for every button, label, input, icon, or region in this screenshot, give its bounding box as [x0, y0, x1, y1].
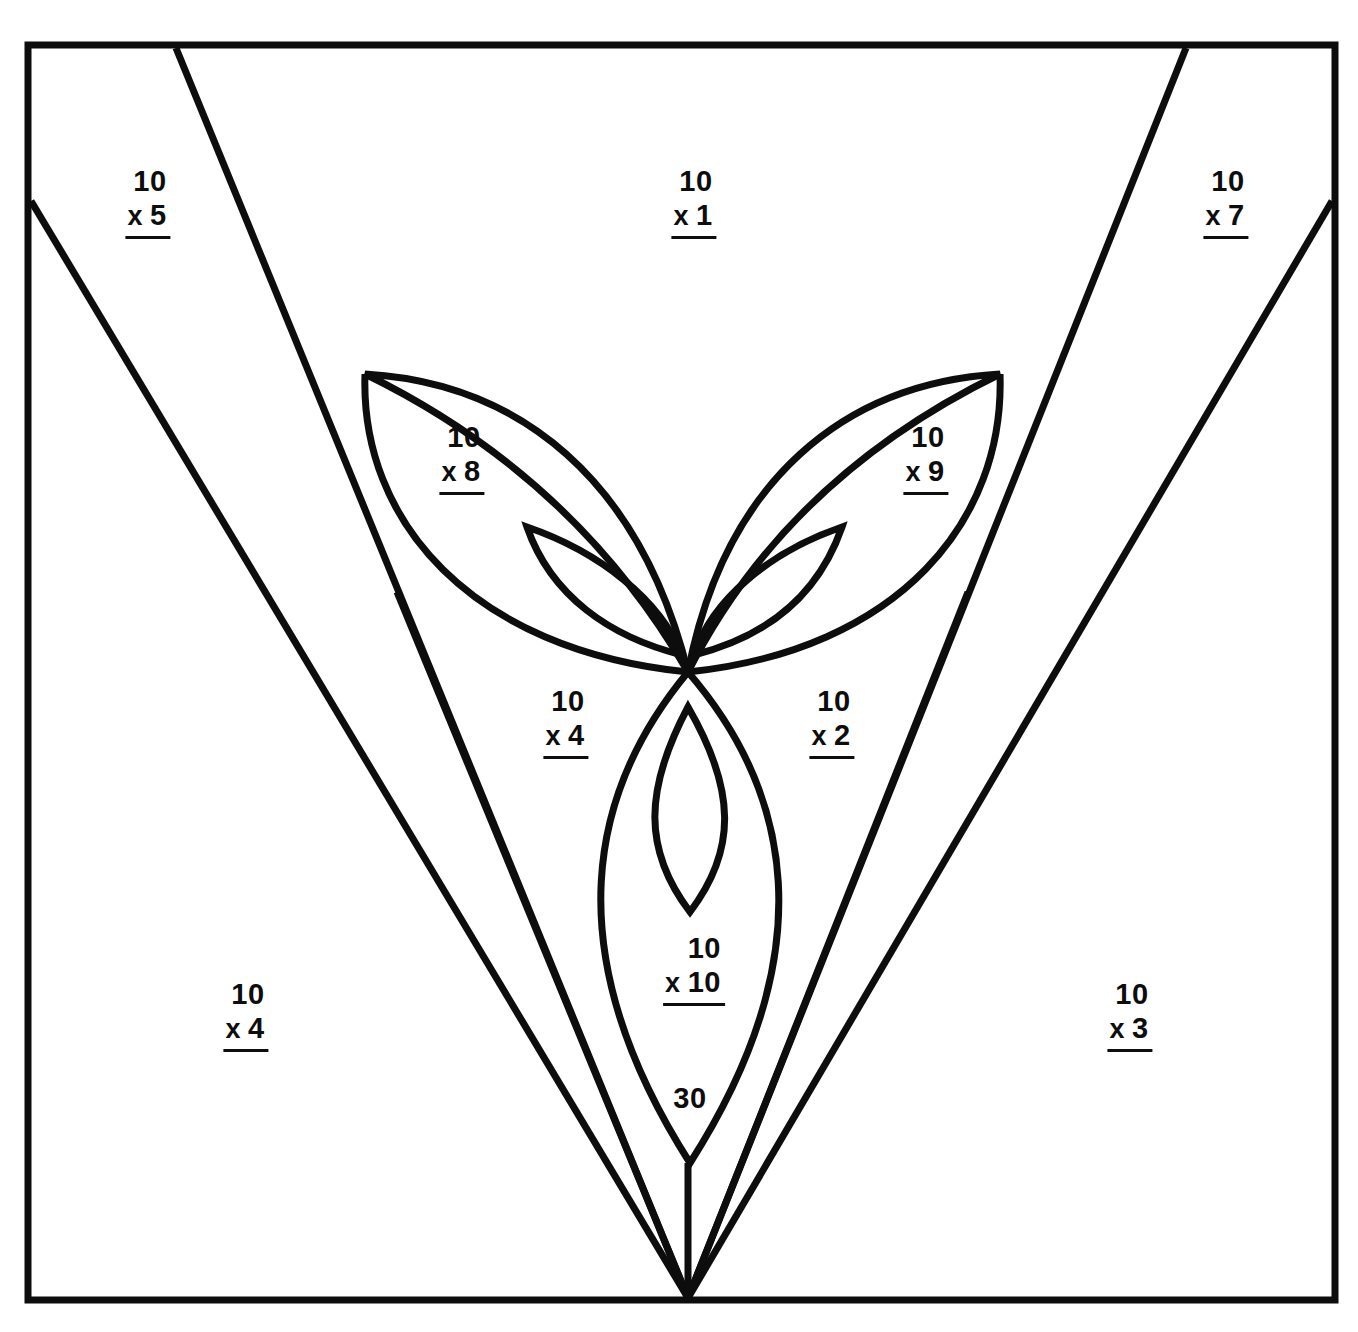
problem-multiplicand: 10: [1211, 164, 1248, 198]
problem-operand-row: x3: [1107, 1011, 1152, 1052]
multiply-operator: x: [665, 968, 681, 1000]
problem-multiplier: 1: [696, 198, 713, 232]
multiplication-problem: 10x7: [1203, 164, 1248, 239]
multiplication-problem: 10x4: [223, 977, 268, 1052]
answer-number: 30: [673, 1082, 706, 1115]
problem-multiplier: 4: [248, 1011, 265, 1045]
problem-multiplier: 4: [568, 718, 585, 752]
multiply-operator: x: [441, 457, 457, 489]
problem-operand-row: x4: [223, 1011, 268, 1052]
problem-operand-row: x4: [543, 718, 588, 759]
problem-multiplier: 10: [688, 965, 721, 999]
problem-multiplier: 8: [464, 454, 481, 488]
problem-multiplicand: 10: [551, 684, 588, 718]
problem-multiplier: 9: [928, 454, 945, 488]
problem-multiplicand: 10: [679, 164, 716, 198]
problem-operand-row: x10: [663, 965, 725, 1006]
problem-multiplier: 7: [1228, 198, 1245, 232]
problem-multiplicand: 10: [911, 420, 948, 454]
bottom-petal-inner-lens: [655, 707, 725, 912]
problem-multiplicand: 10: [447, 420, 484, 454]
problem-operand-row: x5: [125, 198, 170, 239]
problem-operand-row: x7: [1203, 198, 1248, 239]
problem-operand-row: x8: [439, 454, 484, 495]
problem-multiplier: 5: [150, 198, 167, 232]
multiply-operator: x: [673, 201, 689, 233]
multiply-operator: x: [1205, 201, 1221, 233]
problem-multiplicand: 10: [1115, 977, 1152, 1011]
multiply-operator: x: [127, 201, 143, 233]
ray-right-outer: [688, 201, 1332, 1298]
problem-operand-row: x9: [903, 454, 948, 495]
multiplication-problem: 10x4: [543, 684, 588, 759]
multiplication-problem: 10x10: [663, 931, 725, 1006]
problem-multiplicand: 10: [817, 684, 854, 718]
multiplication-problem: 10x5: [125, 164, 170, 239]
problem-multiplicand: 10: [133, 164, 170, 198]
multiply-operator: x: [905, 457, 921, 489]
problem-multiplicand: 10: [688, 931, 725, 965]
multiply-operator: x: [545, 721, 561, 753]
multiplication-problem: 10x3: [1107, 977, 1152, 1052]
worksheet-page: 10x510x110x710x810x910x410x210x1010x410x…: [0, 0, 1358, 1332]
problem-operand-row: x1: [671, 198, 716, 239]
multiply-operator: x: [1109, 1014, 1125, 1046]
problem-multiplicand: 10: [231, 977, 268, 1011]
multiplication-problem: 10x2: [809, 684, 854, 759]
multiply-operator: x: [811, 721, 827, 753]
problem-operand-row: x2: [809, 718, 854, 759]
multiplication-problem: 10x8: [439, 420, 484, 495]
multiply-operator: x: [225, 1014, 241, 1046]
problem-multiplier: 2: [834, 718, 851, 752]
problem-multiplier: 3: [1132, 1011, 1149, 1045]
multiplication-problem: 10x9: [903, 420, 948, 495]
ray-left-outer: [31, 201, 688, 1298]
multiplication-problem: 10x1: [671, 164, 716, 239]
